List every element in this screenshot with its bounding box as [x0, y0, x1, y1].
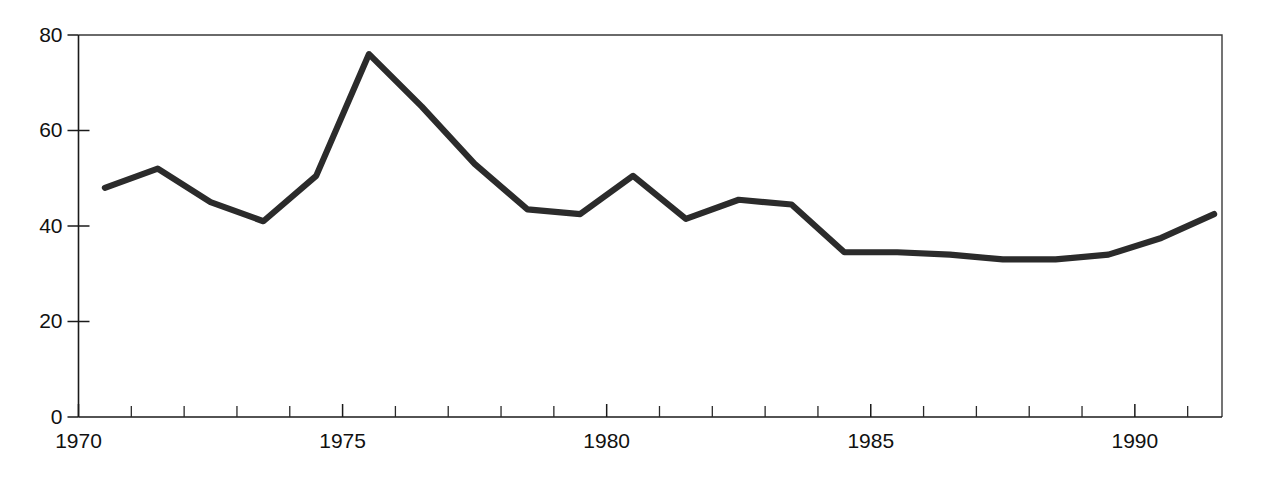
plot-border-top-right: [79, 35, 1223, 417]
x-axis-tick-labels: 19701975198019851990: [55, 429, 1158, 452]
x-tick-label-1980: 1980: [583, 429, 630, 452]
x-tick-label-1985: 1985: [847, 429, 894, 452]
chart-container: 020406080 19701975198019851990: [0, 0, 1265, 491]
x-tick-label-1975: 1975: [319, 429, 366, 452]
y-tick-label-40: 40: [39, 214, 62, 237]
x-axis-ticks: [79, 404, 1188, 417]
data-series-group: [105, 54, 1214, 259]
line-chart: 020406080 19701975198019851990: [0, 0, 1265, 491]
x-tick-label-1990: 1990: [1111, 429, 1158, 452]
y-axis-tick-labels: 020406080: [39, 23, 62, 428]
y-tick-label-0: 0: [51, 405, 63, 428]
plot-frame: [79, 35, 1223, 417]
y-tick-label-80: 80: [39, 23, 62, 46]
x-tick-label-1970: 1970: [55, 429, 102, 452]
y-tick-label-20: 20: [39, 309, 62, 332]
y-tick-label-60: 60: [39, 118, 62, 141]
data-line-1: [105, 54, 1214, 259]
